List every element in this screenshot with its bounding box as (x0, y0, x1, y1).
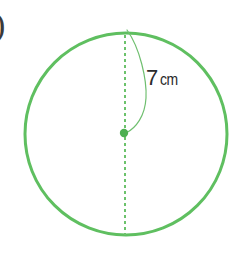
radius-unit: cm (160, 71, 178, 88)
list-item-marker: ) (0, 8, 5, 42)
circle-center-dot (120, 129, 128, 137)
radius-value: 7 (146, 65, 158, 90)
radius-label: 7cm (146, 67, 182, 89)
radius-leader-line (126, 30, 146, 133)
diagram-canvas (0, 0, 244, 255)
circle-diagram-figure: ) 7cm (0, 0, 244, 255)
